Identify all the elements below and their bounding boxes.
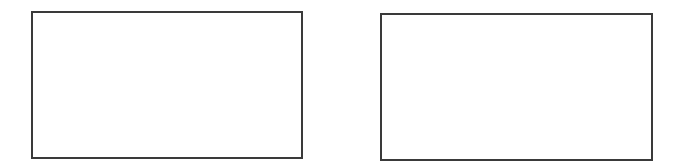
empty-panel-right xyxy=(380,13,653,161)
empty-panel-left xyxy=(31,11,303,159)
